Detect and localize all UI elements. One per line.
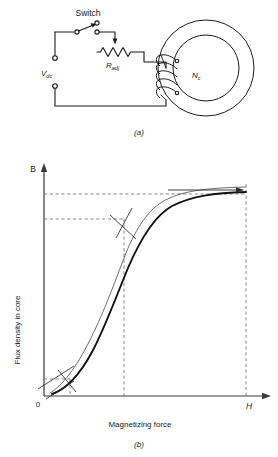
panel-b-chart: B H 0 Flux density in core Magnetizing f… bbox=[0, 0, 271, 449]
wire-coil-lead-bottom bbox=[161, 95, 166, 100]
y-axis-title: Flux density in core bbox=[13, 295, 22, 364]
x-axis-arrow-icon bbox=[262, 393, 271, 399]
source-label: Vdc bbox=[41, 69, 52, 79]
y-axis-symbol: B bbox=[30, 164, 36, 174]
core-inner-circle-icon bbox=[173, 35, 239, 101]
figure-root: Switch Radj Vdc bbox=[0, 0, 278, 457]
switch-label: Switch bbox=[75, 8, 100, 18]
switch-right-contact-icon[interactable] bbox=[95, 30, 99, 34]
switch-upper-contact-icon[interactable] bbox=[95, 21, 99, 25]
origin-label: 0 bbox=[36, 400, 41, 409]
panel-b-caption: (b) bbox=[134, 440, 144, 449]
source-terminal-top-icon[interactable] bbox=[53, 56, 58, 61]
wire-return-bottom bbox=[55, 89, 166, 107]
coil-terminal-top-icon bbox=[175, 59, 178, 62]
figure-svg: Switch Radj Vdc bbox=[0, 0, 278, 457]
resistor-icon bbox=[97, 48, 144, 57]
panel-a-caption: (a) bbox=[134, 128, 144, 137]
core-outer-circle-icon bbox=[158, 20, 254, 116]
magnetization-curve-thin bbox=[50, 187, 246, 393]
coil-terminal-bottom-icon bbox=[175, 91, 178, 94]
panel-a-circuit: Switch Radj Vdc bbox=[41, 8, 254, 137]
coil-turns-label: Nc bbox=[192, 71, 201, 81]
y-axis-arrow-icon bbox=[41, 163, 47, 172]
x-axis-title: Magnetizing force bbox=[108, 420, 172, 429]
source-terminal-bottom-icon[interactable] bbox=[53, 84, 58, 89]
wire-switch-to-resistor-tap bbox=[100, 32, 116, 40]
x-axis-symbol: H bbox=[246, 401, 253, 411]
resistor-label: Radj bbox=[106, 61, 120, 71]
resistor-adjust-arrow-icon bbox=[113, 39, 118, 45]
magnetization-curve-thick bbox=[52, 192, 246, 394]
tangent-cross-b bbox=[110, 215, 136, 239]
